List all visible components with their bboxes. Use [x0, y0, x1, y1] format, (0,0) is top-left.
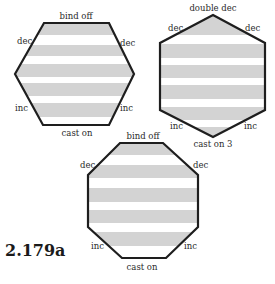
label-inc-left: inc: [15, 103, 28, 113]
label-dec-left: dec: [168, 23, 183, 33]
label-inc-left: inc: [170, 121, 183, 131]
stripes: [85, 143, 203, 246]
label-cast-on: cast on: [127, 262, 158, 272]
label-bind-off: bind off: [60, 11, 94, 21]
octagon: bind off dec dec inc inc cast on: [80, 131, 208, 272]
label-inc-right: inc: [120, 103, 133, 113]
figure-label: 2.179a: [5, 241, 65, 260]
hexagon-flat-top: bind off dec dec inc inc cast on: [10, 11, 140, 138]
knitting-shapes-diagram: bind off dec dec inc inc cast on double …: [0, 0, 275, 284]
label-dec-right: dec: [193, 160, 208, 170]
label-dec-left: dec: [17, 36, 32, 46]
label-double-dec: double dec: [189, 3, 236, 13]
label-inc-right: inc: [184, 241, 197, 251]
hexagon-pointed-top: double dec dec dec inc inc cast on 3: [155, 3, 270, 149]
label-dec-right: dec: [245, 23, 260, 33]
label-bind-off: bind off: [127, 131, 161, 141]
label-cast-on-3: cast on 3: [193, 139, 232, 149]
label-inc-left: inc: [91, 241, 104, 251]
label-dec-right: dec: [120, 38, 135, 48]
label-dec-left: dec: [80, 160, 95, 170]
label-cast-on: cast on: [62, 128, 93, 138]
label-inc-right: inc: [244, 121, 257, 131]
